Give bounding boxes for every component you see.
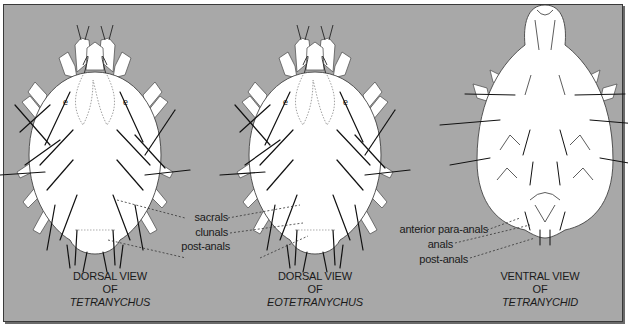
caption-genus: TETRANYCHID — [470, 296, 610, 309]
label-anals: anals — [405, 238, 453, 250]
caption-dorsal-eotetranychus: DORSAL VIEW OF EOTETRANYCHUS — [245, 270, 385, 309]
caption-line1: DORSAL VIEW — [40, 270, 180, 283]
label-clunals: clunals — [183, 226, 228, 238]
caption-line2: OF — [40, 283, 180, 296]
caption-ventral-tetranychid: VENTRAL VIEW OF TETRANYCHID — [470, 270, 610, 309]
caption-genus: TETRANYCHUS — [40, 296, 180, 309]
label-post-anals-dorsal: post-anals — [170, 240, 230, 252]
caption-line1: DORSAL VIEW — [245, 270, 385, 283]
label-sacrals: sacrals — [183, 211, 228, 223]
caption-line2: OF — [470, 283, 610, 296]
label-anterior-para-anals: anterior para-anals — [380, 223, 488, 235]
caption-genus: EOTETRANYCHUS — [245, 296, 385, 309]
caption-line1: VENTRAL VIEW — [470, 270, 610, 283]
label-post-anals-ventral: post-anals — [400, 253, 468, 265]
caption-dorsal-tetranychus: DORSAL VIEW OF TETRANYCHUS — [40, 270, 180, 309]
caption-line2: OF — [245, 283, 385, 296]
